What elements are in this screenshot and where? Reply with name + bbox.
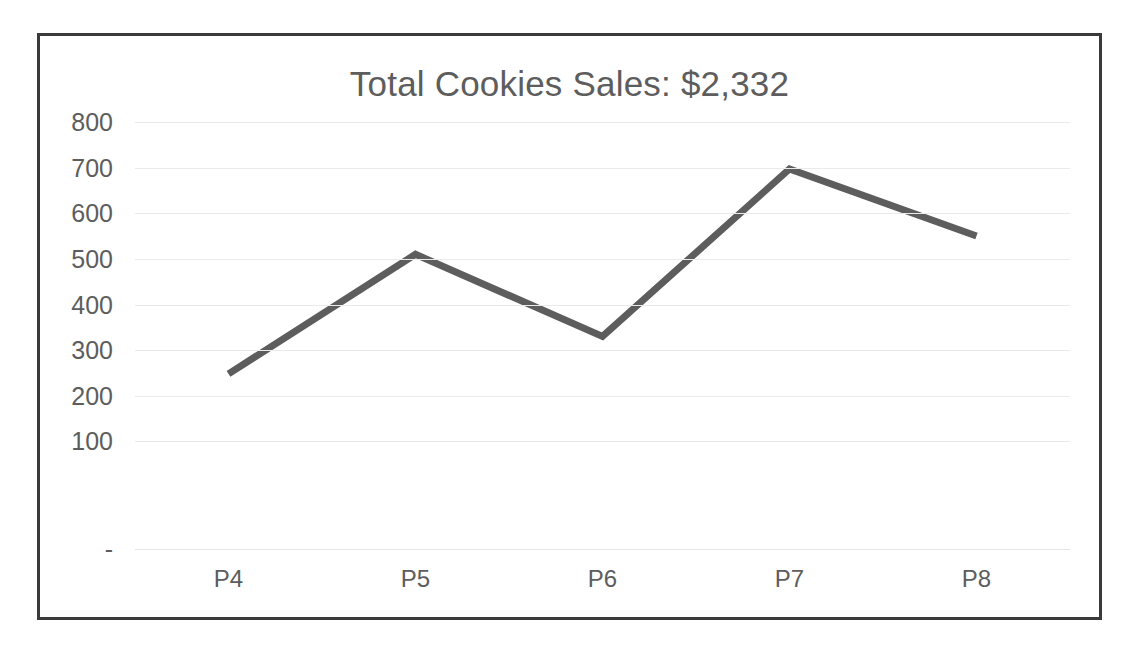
gridline-800 bbox=[135, 122, 1070, 123]
y-axis-tick-label-800: 800 bbox=[71, 108, 113, 137]
gridline-200 bbox=[135, 396, 1070, 397]
y-axis-tick-label-100: 100 bbox=[71, 427, 113, 456]
x-axis-tick-label-p4: P4 bbox=[214, 565, 243, 593]
line-series-cookies-sales bbox=[229, 169, 977, 374]
gridline-600 bbox=[135, 213, 1070, 214]
x-axis-tick-label-p8: P8 bbox=[962, 565, 991, 593]
y-axis-tick-label-500: 500 bbox=[71, 244, 113, 273]
x-axis-tick-label-p5: P5 bbox=[401, 565, 430, 593]
gridline-400 bbox=[135, 305, 1070, 306]
x-axis-tick-label-p7: P7 bbox=[775, 565, 804, 593]
chart-frame: Total Cookies Sales: $2,332 800700600500… bbox=[37, 33, 1102, 620]
gridline-300 bbox=[135, 350, 1070, 351]
gridline-500 bbox=[135, 259, 1070, 260]
y-axis-tick-label-200: 200 bbox=[71, 381, 113, 410]
gridline-100 bbox=[135, 441, 1070, 442]
y-axis-tick-label-400: 400 bbox=[71, 290, 113, 319]
gridline-700 bbox=[135, 168, 1070, 169]
y-axis-tick-label-700: 700 bbox=[71, 153, 113, 182]
y-axis-tick-label-zero: - bbox=[105, 535, 113, 564]
line-series-svg bbox=[135, 122, 1070, 549]
plot-area: 800700600500400300200100-P4P5P6P7P8 bbox=[135, 122, 1070, 549]
y-axis-tick-label-600: 600 bbox=[71, 199, 113, 228]
y-axis-tick-label-300: 300 bbox=[71, 336, 113, 365]
gridline-zero bbox=[135, 549, 1070, 550]
x-axis-tick-label-p6: P6 bbox=[588, 565, 617, 593]
chart-title: Total Cookies Sales: $2,332 bbox=[40, 64, 1099, 104]
